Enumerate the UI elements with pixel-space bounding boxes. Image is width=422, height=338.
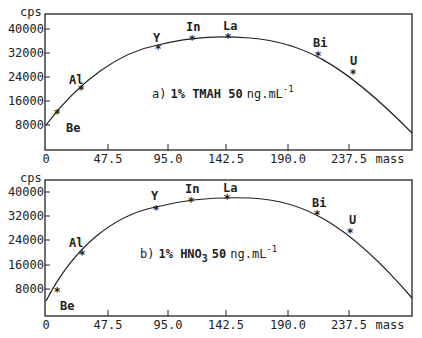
data-point-marker: *	[53, 285, 60, 299]
data-point-marker: *	[349, 67, 356, 81]
element-label: Y	[151, 189, 159, 203]
element-label: La	[223, 181, 237, 195]
xtick-label: 142.5	[208, 318, 244, 332]
data-point-marker: *	[313, 208, 320, 222]
xtick-label: 190.0	[270, 152, 306, 166]
figure: cps 40000 32000 24000 16000 8000 0 47.5 …	[0, 0, 422, 338]
chart-a: cps 40000 32000 24000 16000 8000 0 47.5 …	[8, 5, 412, 166]
ytick-label: 40000	[8, 22, 44, 36]
ytick-label: 24000	[8, 70, 44, 84]
chart-a-curve	[46, 37, 412, 133]
element-label: In	[186, 20, 200, 34]
xtick-label: 95.0	[154, 318, 183, 332]
xtick-label: 47.5	[94, 152, 123, 166]
xtick-label: 237.5	[331, 152, 367, 166]
data-point-marker: *	[152, 203, 159, 217]
element-label: In	[185, 182, 199, 196]
ytick-label: 24000	[8, 233, 44, 247]
xtick-label: 142.5	[208, 152, 244, 166]
ytick-label: 8000	[15, 118, 44, 132]
chart-a-yaxis: 40000 32000 24000 16000 8000	[8, 22, 50, 132]
data-point-marker: *	[188, 33, 195, 47]
chart-b-yaxis: 40000 32000 24000 16000 8000	[8, 185, 50, 296]
element-label: Be	[60, 299, 74, 313]
xtick-label: 0	[42, 152, 49, 166]
data-point-marker: *	[314, 49, 321, 63]
chart-b: cps 40000 32000 24000 16000 8000 0 47.5 …	[8, 171, 412, 332]
chart-b-xlabel: mass	[376, 318, 405, 332]
chart-a-xlabel: mass	[376, 152, 405, 166]
element-label: Al	[69, 236, 83, 250]
chart-a-ylabel: cps	[20, 5, 42, 19]
ytick-label: 32000	[8, 46, 44, 60]
ytick-label: 32000	[8, 209, 44, 223]
element-label: U	[349, 213, 356, 227]
element-label: Be	[66, 121, 80, 135]
ytick-label: 16000	[8, 94, 44, 108]
chart-a-condition-label: a)1% TMAH 50ng.mL-1	[152, 84, 294, 101]
data-point-marker: *	[224, 31, 231, 45]
element-label: Bi	[312, 196, 326, 210]
data-point-marker: *	[53, 107, 60, 121]
ytick-label: 40000	[8, 185, 44, 199]
element-label: Y	[153, 31, 161, 45]
chart-b-points: * * * * * * *	[53, 192, 353, 299]
element-label: U	[350, 54, 357, 68]
xtick-label: 237.5	[331, 318, 367, 332]
xtick-label: 0	[42, 318, 49, 332]
xtick-label: 47.5	[94, 318, 123, 332]
chart-b-xaxis: 0 47.5 95.0 142.5 190.0 237.5 mass	[42, 310, 404, 332]
ytick-label: 16000	[8, 258, 44, 272]
data-point-marker: *	[78, 248, 85, 262]
chart-a-xaxis: 0 47.5 95.0 142.5 190.0 237.5 mass	[42, 144, 404, 166]
element-label: Bi	[313, 36, 327, 50]
xtick-label: 190.0	[270, 318, 306, 332]
data-point-marker: *	[346, 226, 353, 240]
chart-b-condition-label: b)1% HNO350ng.mL-1	[140, 244, 277, 264]
chart-a-element-labels: Be Al Y In La Bi U	[66, 19, 357, 135]
ytick-label: 8000	[15, 282, 44, 296]
element-label: Al	[69, 73, 83, 87]
data-point-marker: *	[187, 195, 194, 209]
chart-b-curve	[46, 198, 412, 301]
chart-a-points: * * * * * * *	[53, 31, 356, 121]
chart-b-element-labels: Be Al Y In La Bi U	[60, 181, 356, 313]
chart-b-ylabel: cps	[20, 171, 42, 185]
element-label: La	[223, 19, 237, 33]
xtick-label: 95.0	[154, 152, 183, 166]
